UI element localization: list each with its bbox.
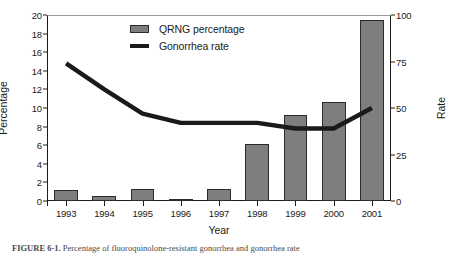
y-tick-label-right-100: 100 [396, 10, 412, 21]
y-tick-mark-left-20 [43, 15, 47, 16]
y-tick-label-left-0: 0 [37, 196, 42, 207]
y-tick-mark-left-6 [43, 145, 47, 146]
legend-item-1: QRNG percentage [130, 22, 244, 36]
y-tick-label-left-20: 20 [32, 10, 42, 21]
y-tick-mark-right-75 [391, 61, 395, 62]
figure-caption: FIGURE 6-1. Percentage of fluoroquinolon… [12, 243, 448, 254]
y-tick-mark-left-14 [43, 70, 47, 71]
x-tick-label-1994: 1994 [94, 208, 114, 219]
y-tick-label-left-16: 16 [32, 47, 42, 58]
x-tick-mark-1999 [295, 201, 296, 206]
y-tick-mark-left-10 [43, 108, 47, 109]
y-tick-label-left-8: 8 [37, 121, 42, 132]
x-tick-label-2001: 2001 [362, 208, 382, 219]
x-tick-mark-1998 [257, 201, 258, 206]
y-tick-mark-left-18 [43, 33, 47, 34]
x-tick-mark-2000 [334, 201, 335, 206]
x-tick-label-1993: 1993 [56, 208, 76, 219]
x-tick-mark-origin [47, 201, 48, 206]
figure-container: Percentage Rate Year 02468101214161820 0… [0, 0, 454, 254]
x-axis-title: Year [208, 224, 229, 236]
y-tick-label-right-75: 75 [396, 56, 406, 67]
x-tick-mark-1996 [181, 201, 182, 206]
legend-item-2: Gonorrhea rate [130, 39, 244, 53]
x-tick-label-1998: 1998 [247, 208, 267, 219]
y-tick-label-left-14: 14 [32, 65, 42, 76]
y-tick-mark-left-16 [43, 52, 47, 53]
y-tick-label-left-18: 18 [32, 28, 42, 39]
y-axis-right-title: Rate [435, 97, 447, 119]
y-tick-mark-left-4 [43, 163, 47, 164]
x-tick-label-2000: 2000 [323, 208, 343, 219]
y-tick-mark-right-0 [391, 201, 395, 202]
x-tick-label-1996: 1996 [171, 208, 191, 219]
y-tick-mark-left-12 [43, 89, 47, 90]
y-tick-mark-right-50 [391, 108, 395, 109]
y-tick-label-right-0: 0 [396, 196, 401, 207]
y-tick-label-left-4: 4 [37, 158, 42, 169]
y-tick-mark-right-25 [391, 154, 395, 155]
x-tick-mark-1995 [143, 201, 144, 206]
legend: QRNG percentageGonorrhea rate [130, 22, 244, 56]
y-tick-mark-left-2 [43, 182, 47, 183]
y-tick-label-left-12: 12 [32, 84, 42, 95]
x-tick-mark-1997 [219, 201, 220, 206]
legend-label: Gonorrhea rate [159, 40, 229, 52]
y-tick-label-left-2: 2 [37, 177, 42, 188]
x-tick-mark-1993 [66, 201, 67, 206]
caption-label: FIGURE 6-1. [12, 243, 61, 253]
y-tick-label-right-50: 50 [396, 103, 406, 114]
y-tick-label-left-6: 6 [37, 140, 42, 151]
legend-label: QRNG percentage [159, 23, 244, 35]
x-tick-label-1995: 1995 [132, 208, 152, 219]
legend-bar-swatch-icon [130, 25, 149, 33]
y-tick-label-right-25: 25 [396, 149, 406, 160]
legend-line-swatch-icon [130, 44, 149, 48]
y-tick-mark-left-8 [43, 126, 47, 127]
x-tick-label-1999: 1999 [285, 208, 305, 219]
x-tick-mark-1994 [104, 201, 105, 206]
x-tick-mark-2001 [372, 201, 373, 206]
caption-text: Percentage of fluoroquinolone-resistant … [63, 243, 300, 253]
y-axis-left-title: Percentage [0, 81, 9, 135]
y-tick-mark-right-100 [391, 15, 395, 16]
x-tick-label-1997: 1997 [209, 208, 229, 219]
y-tick-label-left-10: 10 [32, 103, 42, 114]
